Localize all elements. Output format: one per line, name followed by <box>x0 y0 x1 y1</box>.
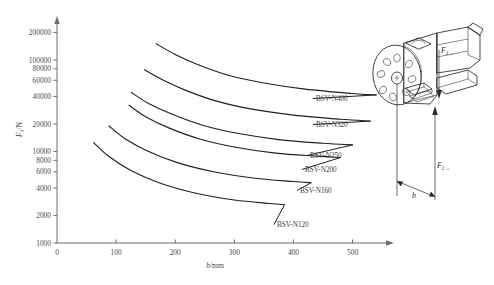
figure-root: 2000001000008000060000400002000010000800… <box>0 0 494 285</box>
x-tick-label: 200 <box>170 248 181 257</box>
curve-bsv-n400 <box>156 44 376 95</box>
y-tick-label: 40000 <box>33 92 52 101</box>
series-label-bsv-n250: BSV-N250 <box>310 152 342 160</box>
device-top-lug-slot <box>412 40 425 44</box>
x-axis-title: b/mm <box>206 261 224 270</box>
device-top-lug <box>406 38 431 49</box>
y-axis-arrowhead <box>54 16 59 24</box>
dimension-b-arrow <box>397 181 436 197</box>
x-tick-label: 400 <box>288 248 299 257</box>
x-tick-label: 100 <box>111 248 122 257</box>
y-axis-title: F1/N <box>15 121 25 138</box>
y-axis-ticks: 2000001000008000060000400002000010000800… <box>29 28 57 248</box>
series-label-bsv-n160: BSV-N160 <box>300 187 332 195</box>
series-label-bsv-n400: BSV-N400 <box>316 95 348 103</box>
y-tick-label: 200000 <box>29 28 51 37</box>
svg-text:b/mm: b/mm <box>206 261 224 270</box>
y-tick-label: 6000 <box>36 167 51 176</box>
force-arrow-bottom <box>432 106 438 200</box>
device-rear-block-top-edge <box>468 27 480 60</box>
device-connector-nub <box>468 23 483 35</box>
series-label-bsv-n200: BSV-N200 <box>305 166 337 174</box>
chart-curves <box>94 44 377 225</box>
y-tick-label: 60000 <box>33 76 52 85</box>
chart-and-diagram-svg: 2000001000008000060000400002000010000800… <box>0 0 494 285</box>
y-tick-label: 1000 <box>36 239 51 248</box>
curve-bsv-n200 <box>129 105 341 157</box>
curve-bsv-n120 <box>94 143 285 205</box>
x-tick-label: 500 <box>347 248 358 257</box>
y-tick-label: 10000 <box>33 147 52 156</box>
svg-text:F1/N: F1/N <box>15 121 25 138</box>
y-tick-label: 8000 <box>36 156 51 165</box>
x-tick-label: 300 <box>229 248 240 257</box>
series-labels: BSV-N400BSV-N320BSV-N250BSV-N200BSV-N160… <box>277 95 348 229</box>
device-rear-block-band-1 <box>437 39 468 45</box>
y-tick-label: 20000 <box>33 120 52 129</box>
x-axis-ticks: 0100200300400500 <box>55 240 358 258</box>
series-label-bsv-n120: BSV-N120 <box>277 221 309 229</box>
y-tick-label: 4000 <box>36 184 51 193</box>
force-label-bottom: F1→ <box>436 161 450 171</box>
x-axis-title-unit: /mm <box>210 261 224 270</box>
series-label-bsv-n320: BSV-N320 <box>316 121 348 129</box>
y-tick-label: 2000 <box>36 211 51 220</box>
dimension-label-b: b <box>412 191 416 200</box>
device-illustration: F1→ F1→ b <box>369 23 483 200</box>
y-tick-label: 80000 <box>33 64 52 73</box>
device-center-crosshair <box>395 76 399 81</box>
y-tick-label: 100000 <box>29 56 51 65</box>
y-axis-title-unit: /N <box>15 121 24 129</box>
x-tick-label: 0 <box>55 248 59 257</box>
force-label-top: F1→ <box>440 46 454 56</box>
x-axis-arrowhead <box>386 240 394 245</box>
